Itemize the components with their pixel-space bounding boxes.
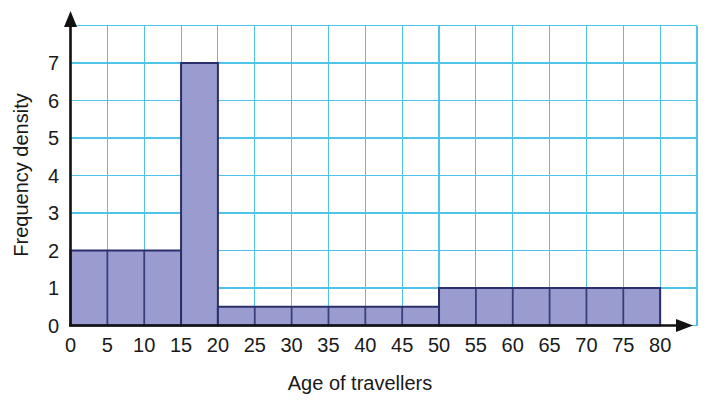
x-tick-label: 20: [207, 334, 229, 356]
x-tick-label: 15: [170, 334, 192, 356]
y-axis-title: Frequency density: [10, 93, 32, 256]
x-tick-label: 0: [65, 334, 76, 356]
histogram-bar: [181, 63, 218, 326]
x-tick-label: 10: [133, 334, 155, 356]
x-tick-label: 80: [649, 334, 671, 356]
x-tick-label: 25: [244, 334, 266, 356]
y-tick-label: 1: [48, 277, 59, 299]
chart-canvas: 05101520253035404550556065707580 0123456…: [0, 0, 707, 401]
y-tick-label: 0: [48, 315, 59, 337]
y-tick-label: 4: [48, 165, 59, 187]
histogram-bar: [71, 251, 182, 326]
x-tick-label: 50: [428, 334, 450, 356]
x-tick-label: 75: [612, 334, 634, 356]
x-tick-label: 30: [280, 334, 302, 356]
y-tick-label: 2: [48, 240, 59, 262]
y-tick-label: 5: [48, 127, 59, 149]
histogram-figure: 05101520253035404550556065707580 0123456…: [0, 0, 707, 401]
x-tick-label: 45: [391, 334, 413, 356]
y-tick-label: 6: [48, 90, 59, 112]
x-tick-label: 40: [354, 334, 376, 356]
x-tick-label: 55: [465, 334, 487, 356]
x-tick-label: 35: [317, 334, 339, 356]
y-tick-label: 3: [48, 202, 59, 224]
x-tick-label: 65: [538, 334, 560, 356]
x-axis-title: Age of travellers: [288, 372, 433, 394]
y-tick-label: 7: [48, 52, 59, 74]
x-tick-label: 5: [102, 334, 113, 356]
x-tick-label: 60: [502, 334, 524, 356]
x-tick-label: 70: [575, 334, 597, 356]
